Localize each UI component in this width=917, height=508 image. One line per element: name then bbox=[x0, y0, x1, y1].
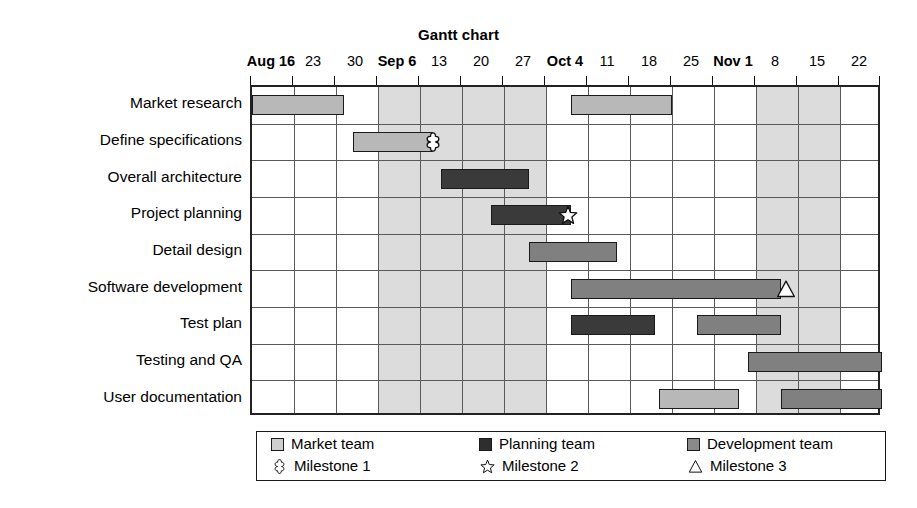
gridline-vertical bbox=[504, 87, 505, 413]
gridline-horizontal bbox=[252, 344, 878, 345]
task-label-testing-and-qa: Testing and QA bbox=[0, 352, 242, 368]
legend-label: Milestone 1 bbox=[294, 457, 371, 475]
legend-label: Planning team bbox=[499, 435, 595, 453]
axis-tick-mark bbox=[838, 76, 839, 85]
gantt-plot-area bbox=[250, 85, 880, 415]
task-label-define-specifications: Define specifications bbox=[0, 132, 242, 148]
gridline-horizontal bbox=[252, 380, 878, 381]
task-label-market-research: Market research bbox=[0, 95, 242, 111]
gridline-vertical bbox=[294, 87, 295, 413]
gridline-vertical bbox=[336, 87, 337, 413]
task-label-test-plan: Test plan bbox=[0, 315, 242, 331]
gridline-horizontal bbox=[252, 160, 878, 161]
time-axis: Aug 162330Sep 6132027Oct 4111825Nov 1815… bbox=[250, 52, 880, 85]
triangle-icon bbox=[687, 458, 703, 474]
legend-row-teams: Market teamPlanning teamDevelopment team bbox=[257, 435, 885, 457]
legend-item-market: Market team bbox=[271, 435, 374, 453]
axis-tick-mark bbox=[796, 76, 797, 85]
axis-tick-label-6: 27 bbox=[515, 52, 531, 71]
gridline-vertical bbox=[462, 87, 463, 413]
five-point-star-icon bbox=[479, 458, 495, 474]
axis-tick-label-12: 8 bbox=[771, 52, 779, 71]
gantt-bar[interactable] bbox=[252, 95, 344, 115]
gantt-bar[interactable] bbox=[571, 315, 655, 335]
legend-row-milestones: Milestone 1Milestone 2Milestone 3 bbox=[257, 457, 885, 479]
gantt-bar[interactable] bbox=[697, 315, 781, 335]
axis-tick-label-3: Sep 6 bbox=[378, 52, 417, 71]
gridline-horizontal bbox=[252, 124, 878, 125]
gantt-bar[interactable] bbox=[571, 279, 781, 299]
gantt-bar[interactable] bbox=[571, 95, 672, 115]
milestone-marker-milestone-3[interactable] bbox=[776, 279, 796, 299]
legend-swatch-dev-icon bbox=[687, 438, 700, 451]
axis-tick-mark bbox=[502, 76, 503, 85]
legend-swatch-market-icon bbox=[271, 438, 284, 451]
axis-tick-label-1: 23 bbox=[305, 52, 321, 71]
legend-item-ms1: Milestone 1 bbox=[271, 457, 371, 475]
gantt-bar[interactable] bbox=[353, 132, 433, 152]
axis-tick-mark bbox=[628, 76, 629, 85]
axis-tick-label-8: 11 bbox=[599, 52, 614, 71]
four-point-star-icon bbox=[271, 458, 287, 474]
task-label-user-documentation: User documentation bbox=[0, 389, 242, 405]
gantt-bar[interactable] bbox=[781, 389, 882, 409]
axis-tick-mark bbox=[712, 76, 713, 85]
gridline-vertical bbox=[630, 87, 631, 413]
legend-item-ms2: Milestone 2 bbox=[479, 457, 579, 475]
axis-tick-mark bbox=[544, 76, 545, 85]
axis-tick-label-4: 13 bbox=[431, 52, 447, 71]
axis-tick-mark bbox=[879, 76, 880, 85]
task-label-software-development: Software development bbox=[0, 279, 242, 295]
axis-tick-label-11: Nov 1 bbox=[713, 52, 753, 71]
legend-item-ms3: Milestone 3 bbox=[687, 457, 787, 475]
task-label-project-planning: Project planning bbox=[0, 205, 242, 221]
chart-legend: Market teamPlanning teamDevelopment team… bbox=[256, 431, 886, 481]
legend-label: Development team bbox=[707, 435, 833, 453]
gridline-horizontal bbox=[252, 197, 878, 198]
axis-tick-mark bbox=[586, 76, 587, 85]
gridline-horizontal bbox=[252, 234, 878, 235]
task-label-overall-architecture: Overall architecture bbox=[0, 169, 242, 185]
axis-tick-mark bbox=[292, 76, 293, 85]
task-label-detail-design: Detail design bbox=[0, 242, 242, 258]
legend-label: Milestone 2 bbox=[502, 457, 579, 475]
axis-tick-mark bbox=[376, 76, 377, 85]
legend-label: Milestone 3 bbox=[710, 457, 787, 475]
gridline-horizontal bbox=[252, 307, 878, 308]
axis-tick-label-10: 25 bbox=[683, 52, 699, 71]
legend-item-planning: Planning team bbox=[479, 435, 595, 453]
axis-tick-mark bbox=[670, 76, 671, 85]
gridline-vertical bbox=[672, 87, 673, 413]
gridline-vertical bbox=[714, 87, 715, 413]
axis-tick-label-5: 20 bbox=[473, 52, 489, 71]
axis-tick-label-7: Oct 4 bbox=[547, 52, 583, 71]
gantt-bar[interactable] bbox=[441, 169, 529, 189]
axis-tick-mark bbox=[334, 76, 335, 85]
milestone-marker-milestone-1[interactable] bbox=[423, 132, 443, 152]
gantt-bar[interactable] bbox=[529, 242, 617, 262]
gantt-bar[interactable] bbox=[659, 389, 739, 409]
legend-swatch-planning-icon bbox=[479, 438, 492, 451]
gantt-chart: Gantt chart Aug 162330Sep 6132027Oct 411… bbox=[0, 0, 917, 508]
milestone-marker-milestone-2[interactable] bbox=[558, 205, 578, 225]
axis-tick-label-2: 30 bbox=[347, 52, 363, 71]
axis-tick-mark bbox=[754, 76, 755, 85]
axis-tick-label-13: 15 bbox=[809, 52, 825, 71]
axis-tick-mark bbox=[250, 76, 251, 85]
legend-item-dev: Development team bbox=[687, 435, 833, 453]
gantt-bar[interactable] bbox=[748, 352, 882, 372]
axis-tick-label-0: Aug 16 bbox=[247, 52, 295, 71]
gridline-horizontal bbox=[252, 270, 878, 271]
axis-tick-mark bbox=[460, 76, 461, 85]
axis-tick-label-9: 18 bbox=[641, 52, 657, 71]
page-title: Gantt chart bbox=[0, 26, 917, 43]
task-label-column: Market researchDefine specificationsOver… bbox=[0, 85, 242, 415]
legend-label: Market team bbox=[291, 435, 374, 453]
axis-tick-mark bbox=[418, 76, 419, 85]
axis-tick-label-14: 22 bbox=[851, 52, 867, 71]
